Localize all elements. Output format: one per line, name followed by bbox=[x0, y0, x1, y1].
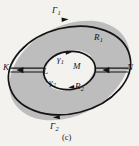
label-point-l: L bbox=[43, 67, 48, 76]
label-inner-top-curve: γ1 bbox=[57, 55, 64, 64]
label-outer-bottom-curve: Γ2 bbox=[50, 122, 58, 131]
label-region-lower: R2 bbox=[75, 82, 84, 91]
label-point-m: M bbox=[73, 62, 81, 71]
label-inner-bottom-curve: γ2 bbox=[49, 78, 56, 87]
label-point-n: N bbox=[127, 63, 133, 72]
label-point-k: K bbox=[3, 63, 9, 72]
annulus-diagram bbox=[0, 0, 139, 146]
label-region-upper: R1 bbox=[94, 33, 103, 42]
arrow-outer-top-icon bbox=[62, 18, 69, 22]
label-outer-top-curve: Γ1 bbox=[52, 6, 60, 15]
figure-caption: (c) bbox=[62, 133, 71, 142]
arrow-inner-bottom-icon bbox=[68, 85, 74, 89]
figure-container: Γ1 Γ2 γ1 γ2 R1 R2 K L M N (c) bbox=[0, 0, 139, 146]
